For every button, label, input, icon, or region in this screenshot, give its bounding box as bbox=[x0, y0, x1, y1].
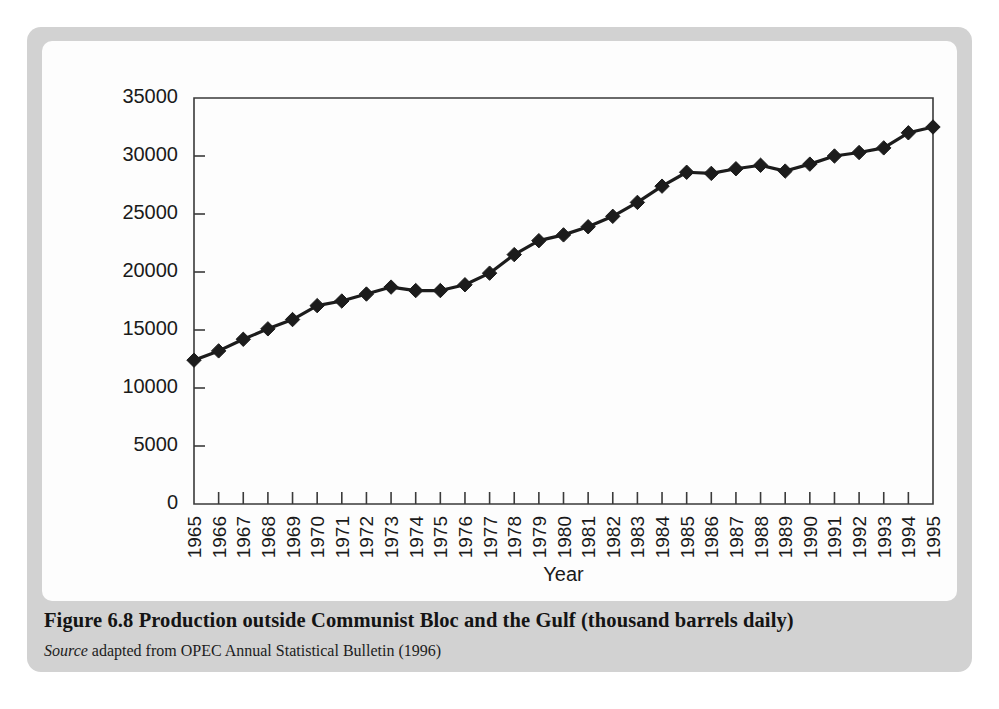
line-chart: 05000100001500020000250003000035000 1965… bbox=[42, 41, 957, 601]
x-tick-label: 1973 bbox=[381, 516, 402, 558]
x-tick-label: 1965 bbox=[184, 516, 205, 558]
x-tick-label: 1988 bbox=[751, 516, 772, 558]
y-tick-label: 10000 bbox=[122, 375, 178, 397]
x-tick-label: 1982 bbox=[603, 516, 624, 558]
chart-svg: 05000100001500020000250003000035000 1965… bbox=[42, 41, 957, 601]
data-point-marker bbox=[532, 233, 546, 247]
data-point-marker bbox=[285, 312, 299, 326]
data-point-marker bbox=[778, 164, 792, 178]
y-axis-tick-labels: 05000100001500020000250003000035000 bbox=[122, 85, 178, 513]
data-point-marker bbox=[458, 278, 472, 292]
source-label: Source bbox=[44, 642, 88, 659]
figure-page: 05000100001500020000250003000035000 1965… bbox=[0, 0, 999, 709]
data-point-marker bbox=[901, 126, 915, 140]
data-point-marker bbox=[827, 149, 841, 163]
x-tick-label: 1989 bbox=[775, 516, 796, 558]
data-point-marker bbox=[433, 283, 447, 297]
y-tick-label: 5000 bbox=[134, 433, 179, 455]
data-point-marker bbox=[335, 294, 349, 308]
x-tick-label: 1992 bbox=[849, 516, 870, 558]
data-point-marker bbox=[803, 157, 817, 171]
figure-frame: 05000100001500020000250003000035000 1965… bbox=[27, 27, 972, 672]
plot-card: 05000100001500020000250003000035000 1965… bbox=[42, 41, 957, 601]
x-axis-tick-labels: 1965196619671968196919701971197219731974… bbox=[184, 516, 944, 559]
x-tick-label: 1983 bbox=[627, 516, 648, 558]
y-tick-label: 20000 bbox=[122, 259, 178, 281]
data-point-marker bbox=[261, 322, 275, 336]
x-axis-title: Year bbox=[543, 563, 584, 585]
source-text: adapted from OPEC Annual Statistical Bul… bbox=[88, 642, 441, 659]
data-point-marker bbox=[729, 162, 743, 176]
x-tick-label: 1971 bbox=[332, 516, 353, 558]
data-point-marker bbox=[679, 165, 693, 179]
data-point-marker bbox=[581, 220, 595, 234]
x-tick-label: 1995 bbox=[923, 516, 944, 558]
data-point-marker bbox=[187, 353, 201, 367]
x-tick-label: 1976 bbox=[455, 516, 476, 558]
x-tick-label: 1966 bbox=[209, 516, 230, 558]
y-axis-tick-marks bbox=[194, 156, 205, 446]
data-point-marker bbox=[704, 166, 718, 180]
x-tick-label: 1981 bbox=[578, 516, 599, 558]
data-point-marker bbox=[877, 141, 891, 155]
data-point-marker bbox=[409, 283, 423, 297]
series-line-production bbox=[194, 127, 933, 360]
x-tick-label: 1970 bbox=[307, 516, 328, 558]
y-tick-label: 25000 bbox=[122, 201, 178, 223]
data-point-marker bbox=[852, 145, 866, 159]
y-tick-label: 30000 bbox=[122, 143, 178, 165]
x-axis-tick-marks bbox=[219, 492, 909, 504]
x-tick-label: 1978 bbox=[504, 516, 525, 558]
x-tick-label: 1967 bbox=[233, 516, 254, 558]
x-tick-label: 1969 bbox=[283, 516, 304, 558]
caption-block: Figure 6.8 Production outside Communist … bbox=[42, 609, 957, 667]
x-tick-label: 1977 bbox=[480, 516, 501, 558]
x-tick-label: 1974 bbox=[406, 516, 427, 559]
x-tick-label: 1979 bbox=[529, 516, 550, 558]
figure-caption: Figure 6.8 Production outside Communist … bbox=[44, 609, 957, 633]
data-point-marker bbox=[753, 158, 767, 172]
figure-source: Source adapted from OPEC Annual Statisti… bbox=[44, 642, 957, 660]
data-point-marker bbox=[926, 120, 940, 134]
x-tick-label: 1991 bbox=[824, 516, 845, 558]
x-tick-label: 1994 bbox=[898, 516, 919, 559]
data-point-marker bbox=[211, 344, 225, 358]
data-point-marker bbox=[606, 209, 620, 223]
x-tick-label: 1980 bbox=[554, 516, 575, 558]
x-tick-label: 1987 bbox=[726, 516, 747, 558]
x-tick-label: 1993 bbox=[874, 516, 895, 558]
x-tick-label: 1986 bbox=[701, 516, 722, 558]
data-point-marker bbox=[556, 228, 570, 242]
x-tick-label: 1990 bbox=[800, 516, 821, 558]
y-tick-label: 15000 bbox=[122, 317, 178, 339]
data-point-marker bbox=[310, 298, 324, 312]
data-point-marker bbox=[236, 332, 250, 346]
x-tick-label: 1985 bbox=[677, 516, 698, 558]
y-tick-label: 35000 bbox=[122, 85, 178, 107]
data-point-marker bbox=[384, 280, 398, 294]
x-tick-label: 1975 bbox=[430, 516, 451, 558]
x-tick-label: 1968 bbox=[258, 516, 279, 558]
data-point-marker bbox=[359, 287, 373, 301]
x-tick-label: 1972 bbox=[356, 516, 377, 558]
x-tick-label: 1984 bbox=[652, 516, 673, 559]
y-tick-label: 0 bbox=[167, 491, 178, 513]
